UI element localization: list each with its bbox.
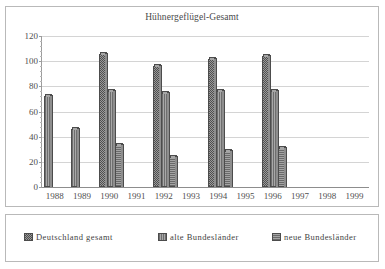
- gridline: [42, 187, 369, 188]
- bar-rect: [262, 56, 269, 187]
- bar-rect: [169, 157, 176, 187]
- y-tick-mark: [39, 187, 42, 188]
- bars-layer: [42, 36, 369, 187]
- x-axis-labels: 1988198919901991199219931994199519961997…: [41, 190, 369, 206]
- bar-rect: [161, 93, 168, 187]
- x-tick-label: 1994: [209, 191, 227, 201]
- legend-label: neue Bundesländer: [284, 232, 357, 242]
- y-tick-label: 40: [29, 132, 38, 142]
- x-tick-label: 1999: [345, 191, 363, 201]
- legend-item-alte-bundeslaender: alte Bundesländer: [158, 232, 239, 242]
- category-group: [206, 36, 233, 187]
- legend-label: Deutschland gesamt: [36, 232, 113, 242]
- bar-side-face: [77, 128, 80, 187]
- y-tick-label: 120: [25, 31, 39, 41]
- category-group: [151, 36, 178, 187]
- x-tick-label: 1988: [46, 191, 64, 201]
- y-tick-label: 20: [29, 157, 38, 167]
- legend-swatch-icon: [24, 233, 33, 241]
- bar-rect: [224, 151, 231, 187]
- legend-swatch-icon: [272, 233, 281, 241]
- category-group: [315, 36, 342, 187]
- plot-area: 020406080100120: [41, 36, 369, 188]
- y-tick-label: 80: [29, 81, 38, 91]
- category-group: [233, 36, 260, 187]
- category-group: [287, 36, 314, 187]
- category-group: [124, 36, 151, 187]
- category-group: [42, 36, 69, 187]
- legend-swatch-icon: [158, 233, 167, 241]
- bar-rect: [115, 145, 122, 187]
- x-tick-label: 1996: [264, 191, 282, 201]
- y-tick-label: 60: [29, 107, 38, 117]
- x-tick-label: 1989: [73, 191, 91, 201]
- bar-rect: [278, 148, 285, 187]
- chart-panel: Hühnergeflügel-Gesamt 020406080100120 19…: [5, 6, 379, 207]
- x-tick-label: 1990: [100, 191, 118, 201]
- category-group: [97, 36, 124, 187]
- x-tick-label: 1998: [318, 191, 336, 201]
- bar-rect: [44, 96, 51, 187]
- chart-title: Hühnergeflügel-Gesamt: [6, 12, 378, 22]
- bar-rect: [216, 91, 223, 187]
- category-group: [260, 36, 287, 187]
- bar-rect: [270, 91, 277, 187]
- legend-item-deutschland-gesamt: Deutschland gesamt: [24, 232, 113, 242]
- category-group: [69, 36, 96, 187]
- bar-rect: [99, 54, 106, 187]
- legend-label: alte Bundesländer: [170, 232, 239, 242]
- y-tick-label: 0: [34, 182, 39, 192]
- x-tick-label: 1991: [127, 191, 145, 201]
- bar-rect: [107, 91, 114, 187]
- bar-rect: [71, 129, 78, 187]
- category-group: [342, 36, 369, 187]
- bar-rect: [208, 59, 215, 187]
- y-tick-label: 100: [25, 56, 39, 66]
- category-group: [178, 36, 205, 187]
- legend-item-neue-bundeslaender: neue Bundesländer: [272, 232, 357, 242]
- bar-rect: [153, 66, 160, 187]
- x-tick-label: 1997: [291, 191, 309, 201]
- x-tick-label: 1993: [182, 191, 200, 201]
- legend-panel: Deutschland gesamt alte Bundesländer neu…: [5, 214, 379, 262]
- bar-side-face: [50, 95, 53, 187]
- x-tick-label: 1992: [155, 191, 173, 201]
- x-tick-label: 1995: [236, 191, 254, 201]
